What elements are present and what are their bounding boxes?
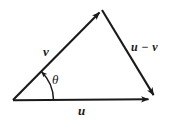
vector-triangle-figure: v u − v u θ — [0, 0, 169, 124]
label-u-minus-v: u − v — [131, 41, 158, 53]
label-v: v — [43, 45, 49, 58]
label-u: u — [78, 104, 86, 117]
label-theta: θ — [52, 73, 59, 86]
u-vector-line — [13, 99, 149, 100]
